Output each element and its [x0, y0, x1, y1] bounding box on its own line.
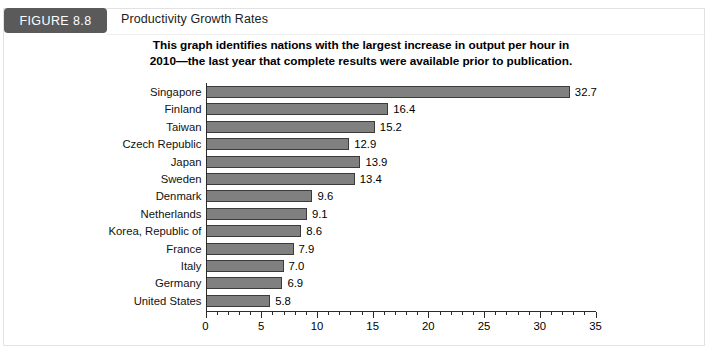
- bar: [206, 173, 355, 185]
- bar-chart-plot-area: Singapore32.7Finland16.4Taiwan15.2Czech …: [0, 0, 709, 353]
- x-axis-minor-tick: [328, 312, 329, 315]
- bar: [206, 295, 271, 307]
- bar: [206, 208, 307, 220]
- x-axis-tick-label: 30: [525, 320, 555, 333]
- x-axis-major-tick: [484, 312, 485, 318]
- x-axis-tick-label: 35: [581, 320, 611, 333]
- x-axis-minor-tick: [573, 312, 574, 315]
- x-axis-major-tick: [540, 312, 541, 318]
- x-axis-minor-tick: [451, 312, 452, 315]
- bar: [206, 190, 313, 202]
- x-axis-minor-tick: [584, 312, 585, 315]
- x-axis-minor-tick: [506, 312, 507, 315]
- x-axis-minor-tick: [473, 312, 474, 315]
- x-axis-major-tick: [206, 312, 207, 318]
- y-axis-line: [206, 83, 207, 311]
- x-axis-major-tick: [317, 312, 318, 318]
- x-axis-minor-tick: [250, 312, 251, 315]
- bar-row: Taiwan15.2: [0, 119, 709, 136]
- bar-value-label: 5.8: [275, 293, 291, 310]
- category-label: Korea, Republic of: [52, 223, 202, 240]
- category-label: United States: [52, 293, 202, 310]
- x-axis-minor-tick: [462, 312, 463, 315]
- category-label: France: [52, 241, 202, 258]
- x-axis-tick-label: 20: [413, 320, 443, 333]
- bar-row: United States5.8: [0, 293, 709, 310]
- x-axis-minor-tick: [518, 312, 519, 315]
- category-label: Taiwan: [52, 119, 202, 136]
- category-label: Finland: [52, 101, 202, 118]
- bar: [206, 138, 350, 150]
- x-axis-minor-tick: [395, 312, 396, 315]
- x-axis-minor-tick: [239, 312, 240, 315]
- bar-row: Czech Republic12.9: [0, 136, 709, 153]
- bar-value-label: 32.7: [575, 84, 597, 101]
- category-label: Denmark: [52, 188, 202, 205]
- bar: [206, 121, 375, 133]
- bar-value-label: 15.2: [380, 119, 402, 136]
- bar-value-label: 7.0: [289, 258, 305, 275]
- bar: [206, 86, 570, 98]
- category-label: Czech Republic: [52, 136, 202, 153]
- bar-value-label: 13.4: [360, 171, 382, 188]
- x-axis-major-tick: [261, 312, 262, 318]
- x-axis-minor-tick: [495, 312, 496, 315]
- x-axis-minor-tick: [440, 312, 441, 315]
- bar-row: Italy7.0: [0, 258, 709, 275]
- bar-value-label: 12.9: [354, 136, 376, 153]
- x-axis-minor-tick: [562, 312, 563, 315]
- bar-value-label: 6.9: [287, 275, 303, 292]
- category-label: Singapore: [52, 84, 202, 101]
- bar-row: France7.9: [0, 241, 709, 258]
- bar-value-label: 9.6: [317, 188, 333, 205]
- x-axis-major-tick: [596, 312, 597, 318]
- x-axis-minor-tick: [350, 312, 351, 315]
- bar-value-label: 9.1: [312, 206, 328, 223]
- category-label: Japan: [52, 154, 202, 171]
- bar-row: Japan13.9: [0, 154, 709, 171]
- x-axis-tick-label: 0: [191, 320, 221, 333]
- x-axis-major-tick: [428, 312, 429, 318]
- x-axis-line: [206, 311, 596, 312]
- bar-value-label: 13.9: [365, 154, 387, 171]
- x-axis-tick-label: 5: [246, 320, 276, 333]
- x-axis-tick-label: 15: [358, 320, 388, 333]
- bar: [206, 260, 284, 272]
- bar-value-label: 7.9: [299, 241, 315, 258]
- x-axis-minor-tick: [362, 312, 363, 315]
- bar-row: Korea, Republic of8.6: [0, 223, 709, 240]
- bar: [206, 156, 361, 168]
- bar: [206, 103, 389, 115]
- x-axis-tick-label: 10: [302, 320, 332, 333]
- x-axis-minor-tick: [284, 312, 285, 315]
- bar-row: Finland16.4: [0, 101, 709, 118]
- bar-row: Singapore32.7: [0, 84, 709, 101]
- category-label: Sweden: [52, 171, 202, 188]
- bar: [206, 277, 283, 289]
- bar-value-label: 16.4: [393, 101, 415, 118]
- x-axis-minor-tick: [529, 312, 530, 315]
- bar-row: Sweden13.4: [0, 171, 709, 188]
- bar: [206, 243, 294, 255]
- x-axis-minor-tick: [406, 312, 407, 315]
- x-axis-minor-tick: [228, 312, 229, 315]
- x-axis-tick-label: 25: [469, 320, 499, 333]
- x-axis-minor-tick: [217, 312, 218, 315]
- bar-row: Germany6.9: [0, 275, 709, 292]
- category-label: Italy: [52, 258, 202, 275]
- x-axis-major-tick: [373, 312, 374, 318]
- figure-container: FIGURE 8.8 Productivity Growth Rates Thi…: [0, 0, 709, 353]
- category-label: Germany: [52, 275, 202, 292]
- x-axis-minor-tick: [551, 312, 552, 315]
- x-axis-minor-tick: [306, 312, 307, 315]
- x-axis-minor-tick: [339, 312, 340, 315]
- bar-row: Denmark9.6: [0, 188, 709, 205]
- category-label: Netherlands: [52, 206, 202, 223]
- x-axis-minor-tick: [295, 312, 296, 315]
- bar-row: Netherlands9.1: [0, 206, 709, 223]
- x-axis-minor-tick: [384, 312, 385, 315]
- x-axis-minor-tick: [272, 312, 273, 315]
- x-axis-minor-tick: [417, 312, 418, 315]
- bar: [206, 225, 302, 237]
- bar-value-label: 8.6: [306, 223, 322, 240]
